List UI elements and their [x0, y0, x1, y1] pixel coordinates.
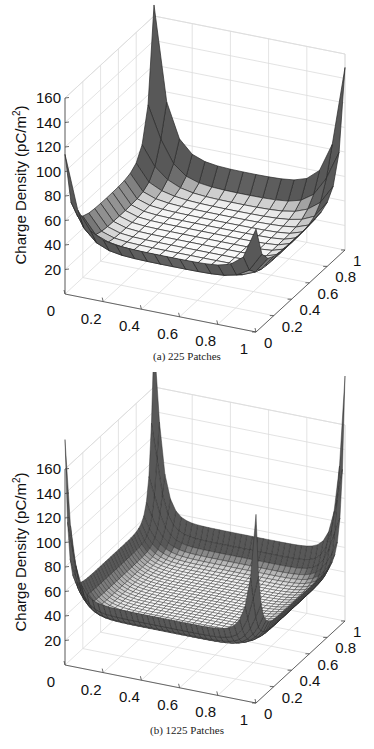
y-tick-label: 0.6	[317, 656, 338, 673]
surface-mesh	[65, 372, 345, 643]
chart-panel-225-patches: 2040608010012014016000.20.40.60.8100.20.…	[0, 0, 374, 372]
y-tick-label: 0.2	[282, 689, 303, 706]
x-tick-label: 0.2	[81, 310, 102, 327]
z-tick-label: 80	[44, 187, 61, 204]
y-tick-label: 1	[353, 252, 361, 269]
x-tick-label: 0	[47, 673, 55, 690]
chart-panel-1225-patches: 2040608010012014016000.20.40.60.8100.20.…	[0, 372, 374, 749]
z-tick-label: 80	[44, 558, 61, 575]
z-tick-label: 100	[36, 163, 61, 180]
surface-plot-1225: 2040608010012014016000.20.40.60.8100.20.…	[0, 372, 374, 749]
caption-1225-patches: (b) 1225 Patches	[0, 724, 374, 736]
z-tick-label: 60	[44, 583, 61, 600]
z-tick-label: 60	[44, 212, 61, 229]
x-tick-label: 0.6	[157, 696, 178, 713]
z-tick-label: 120	[36, 138, 61, 155]
z-tick-label: 160	[36, 460, 61, 477]
z-tick-label: 160	[36, 89, 61, 106]
x-tick-label: 0.8	[195, 703, 216, 720]
z-tick-label: 100	[36, 534, 61, 551]
y-tick-label: 0.2	[282, 318, 303, 335]
z-axis-label: Charge Density (pC/m2)	[11, 473, 29, 632]
z-tick-label: 140	[36, 114, 61, 131]
x-tick-label: 0.6	[157, 325, 178, 342]
x-tick-label: 0.4	[119, 688, 140, 705]
z-tick-label: 40	[44, 607, 61, 624]
y-tick-label: 0.6	[317, 285, 338, 302]
z-tick-label: 20	[44, 261, 61, 278]
y-tick-label: 0.8	[335, 268, 356, 285]
x-tick-label: 0.2	[81, 681, 102, 698]
caption-225-patches: (a) 225 Patches	[0, 350, 374, 362]
x-tick-label: 0	[47, 302, 55, 319]
y-tick-label: 0	[264, 334, 272, 351]
z-tick-label: 120	[36, 509, 61, 526]
y-tick-label: 0.8	[335, 639, 356, 656]
x-tick-label: 0.8	[195, 332, 216, 349]
y-tick-label: 1	[353, 623, 361, 640]
x-tick-label: 0.4	[119, 317, 140, 334]
surface-plot-225: 2040608010012014016000.20.40.60.8100.20.…	[0, 0, 374, 372]
z-tick-label: 40	[44, 236, 61, 253]
y-tick-label: 0.4	[300, 301, 321, 318]
z-axis-label: Charge Density (pC/m2)	[11, 106, 29, 265]
y-tick-label: 0	[264, 705, 272, 722]
y-tick-label: 0.4	[300, 672, 321, 689]
z-tick-label: 20	[44, 632, 61, 649]
z-tick-label: 140	[36, 485, 61, 502]
